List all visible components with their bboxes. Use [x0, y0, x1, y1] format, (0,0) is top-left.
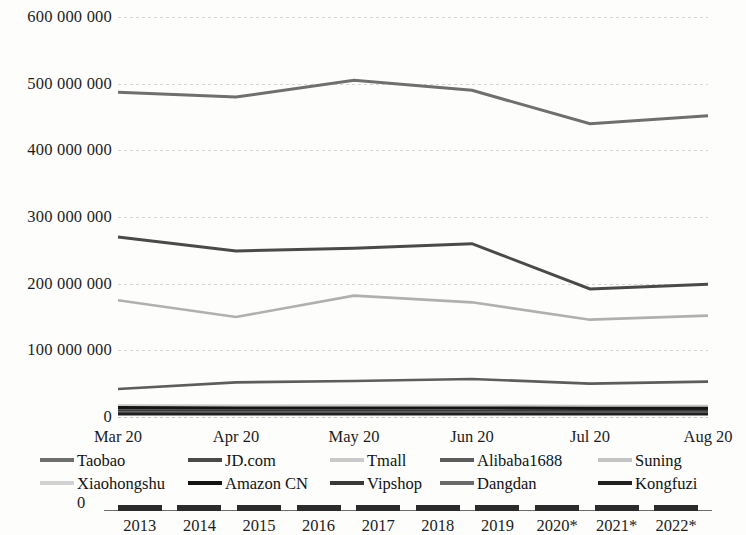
bottom-partial-chart: 0 20132014201520162017201820192020*2021*…: [0, 500, 746, 535]
bottom-year-label: 2014: [183, 516, 216, 535]
bottom-year-label: 2020*: [536, 516, 577, 535]
legend-swatch-icon: [40, 481, 74, 485]
line-chart: 0100 000 000200 000 000300 000 000400 00…: [0, 0, 746, 430]
legend-label: Suning: [635, 453, 682, 470]
legend-swatch-icon: [440, 458, 474, 462]
bottom-bar-stub: [297, 505, 341, 511]
legend-item[interactable]: Amazon CN: [188, 475, 308, 492]
legend-label: Kongfuzi: [635, 476, 697, 493]
bottom-bar-stub: [177, 505, 221, 511]
bottom-bar-stub: [237, 505, 281, 511]
legend-item[interactable]: Taobao: [40, 452, 125, 469]
legend-label: JD.com: [225, 453, 276, 470]
series-line: [118, 379, 708, 389]
legend-label: Amazon CN: [225, 476, 308, 493]
legend-item[interactable]: Dangdan: [440, 475, 537, 492]
series-line: [118, 237, 708, 289]
bottom-bar-stub: [535, 505, 579, 511]
series-line: [118, 80, 708, 123]
legend-row-2: XiaohongshuAmazon CNVipshopDangdanKongfu…: [0, 475, 746, 498]
legend-item[interactable]: Xiaohongshu: [40, 475, 165, 492]
legend-item[interactable]: Alibaba1688: [440, 452, 562, 469]
legend-row-1: TaobaoJD.comTmallAlibaba1688Suning: [0, 452, 746, 475]
legend-swatch-icon: [330, 481, 364, 485]
legend-label: Taobao: [77, 453, 125, 470]
legend-item[interactable]: Suning: [598, 452, 682, 469]
x-tick-label: May 20: [329, 427, 380, 447]
chart-legend: TaobaoJD.comTmallAlibaba1688Suning Xiaoh…: [0, 452, 746, 500]
series-lines: [0, 0, 746, 430]
x-tick-label: Apr 20: [213, 427, 259, 447]
legend-swatch-icon: [188, 481, 222, 485]
bottom-year-label: 2013: [123, 516, 156, 535]
bottom-zero-label: 0: [77, 493, 85, 513]
legend-item[interactable]: Kongfuzi: [598, 475, 697, 492]
legend-item[interactable]: Tmall: [330, 452, 406, 469]
legend-label: Dangdan: [477, 476, 537, 493]
x-axis-labels: Mar 20Apr 20May 20Jun 20Jul 20Aug 20: [0, 427, 746, 453]
bottom-bar-stub: [595, 505, 639, 511]
legend-label: Alibaba1688: [477, 453, 562, 470]
bottom-year-label: 2017: [362, 516, 395, 535]
bottom-bar-stub: [475, 505, 519, 511]
bottom-year-label: 2022*: [656, 516, 697, 535]
series-line: [118, 408, 708, 409]
legend-label: Xiaohongshu: [77, 476, 165, 493]
legend-item[interactable]: Vipshop: [330, 475, 422, 492]
legend-swatch-icon: [440, 481, 474, 485]
legend-swatch-icon: [188, 458, 222, 462]
bottom-bar-stub: [118, 505, 162, 511]
x-tick-label: Jun 20: [450, 427, 494, 447]
legend-swatch-icon: [598, 481, 632, 485]
bottom-bar-stub: [416, 505, 460, 511]
legend-swatch-icon: [330, 458, 364, 462]
bottom-year-label: 2019: [481, 516, 514, 535]
bottom-year-label: 2015: [243, 516, 276, 535]
x-tick-label: Aug 20: [683, 427, 732, 447]
legend-swatch-icon: [598, 458, 632, 462]
bottom-bar-stub: [654, 505, 698, 511]
bottom-year-label: 2016: [302, 516, 335, 535]
legend-label: Tmall: [367, 453, 406, 470]
legend-swatch-icon: [40, 458, 74, 462]
bottom-bar-stub: [356, 505, 400, 511]
bottom-year-label: 2018: [421, 516, 454, 535]
legend-label: Vipshop: [367, 476, 422, 493]
x-tick-label: Mar 20: [94, 427, 142, 447]
chart-page: 0100 000 000200 000 000300 000 000400 00…: [0, 0, 746, 535]
bottom-year-label: 2021*: [596, 516, 637, 535]
x-tick-label: Jul 20: [570, 427, 610, 447]
series-line: [118, 296, 708, 320]
legend-item[interactable]: JD.com: [188, 452, 276, 469]
